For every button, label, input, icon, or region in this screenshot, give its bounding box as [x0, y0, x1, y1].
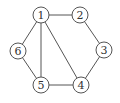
- node-label: 1: [38, 9, 45, 22]
- node-label: 2: [77, 9, 84, 22]
- node-5: 5: [33, 77, 49, 93]
- node-label: 4: [78, 79, 85, 92]
- node-2: 2: [72, 7, 88, 23]
- edges-group: [18, 15, 104, 85]
- graph-diagram: 123456: [0, 0, 120, 103]
- node-label: 3: [101, 44, 108, 57]
- node-label: 5: [38, 79, 45, 92]
- node-label: 6: [15, 45, 22, 58]
- node-1: 1: [33, 7, 49, 23]
- node-6: 6: [10, 43, 26, 59]
- edge-1-4: [41, 15, 81, 85]
- node-4: 4: [73, 77, 89, 93]
- node-3: 3: [96, 42, 112, 58]
